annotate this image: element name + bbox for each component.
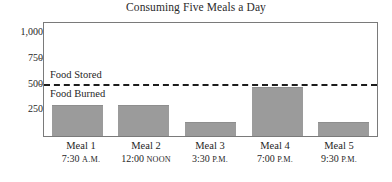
food-burned-label: Food Burned (50, 88, 105, 99)
x-axis-label-meal-5: Meal 5 (292, 139, 386, 152)
bar-meal-2 (118, 105, 169, 136)
bar-meal-1 (52, 105, 103, 136)
x-axis-time-suffix-meal-4: P.M. (277, 155, 293, 164)
x-axis-time-value-meal-3: 3:30 (192, 153, 210, 164)
bar-meal-5 (318, 122, 369, 136)
x-axis-time-suffix-meal-3: P.M. (212, 155, 228, 164)
x-axis-group-meal-5: Meal 5 9:30 P.M. (292, 139, 386, 166)
x-axis-time-meal-5: 9:30 P.M. (292, 152, 386, 166)
y-tick-label-750: 750 (2, 53, 43, 63)
bar-meal-4 (252, 87, 303, 136)
threshold-dashed-line (44, 84, 377, 86)
x-axis: Meal 1 7:30 A.M. Meal 2 12:00 NOON Meal … (43, 139, 378, 182)
x-axis-time-value-meal-1: 7:30 (62, 153, 80, 164)
y-tick-label-250: 250 (2, 104, 43, 114)
y-tick-label-1000: 1,000 (2, 27, 43, 37)
x-axis-time-suffix-meal-1: A.M. (82, 155, 100, 164)
bar-meal-3 (185, 122, 236, 136)
x-axis-time-value-meal-5: 9:30 (321, 153, 339, 164)
plot-area: Food Stored Food Burned (43, 22, 378, 137)
x-axis-time-suffix-meal-5: P.M. (341, 155, 357, 164)
x-axis-time-value-meal-4: 7:00 (257, 153, 275, 164)
food-stored-label: Food Stored (50, 69, 102, 80)
chart-figure: Consuming Five Meals a Day 1,000 750 500… (0, 0, 392, 182)
chart-title: Consuming Five Meals a Day (0, 1, 392, 13)
x-axis-time-value-meal-2: 12:00 (121, 153, 144, 164)
y-tick-label-500: 500 (2, 79, 43, 89)
